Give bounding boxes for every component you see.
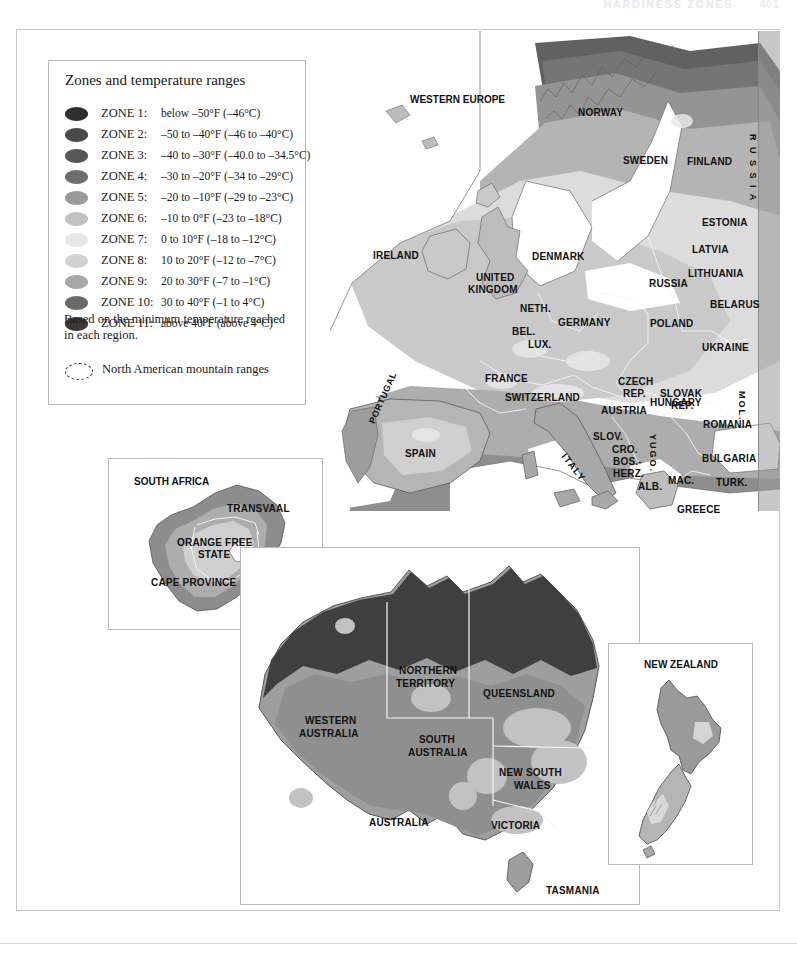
south-africa-region-label: CAPE PROVINCE xyxy=(151,577,236,588)
legend-row[interactable]: ZONE 9:20 to 30°F (–7 to –1°C) xyxy=(65,272,297,293)
europe-country-label: UKRAINE xyxy=(702,342,749,353)
zone-color-swatch xyxy=(65,233,88,247)
europe-country-label: SPAIN xyxy=(405,448,436,459)
europe-country-label: NETH. xyxy=(520,303,551,314)
europe-country-label: IRELAND xyxy=(373,250,419,261)
europe-country-label: GREECE xyxy=(677,504,720,515)
legend-title: Zones and temperature ranges xyxy=(65,72,245,89)
europe-country-label: YUGO. xyxy=(647,434,658,473)
legend-row[interactable]: ZONE 8:10 to 20°F (–12 to –7°C) xyxy=(65,251,297,272)
legend-mountain-label: North American mountain ranges xyxy=(102,362,269,377)
new-zealand-inset-panel[interactable]: NEW ZEALAND xyxy=(608,643,753,865)
europe-country-label: NORWAY xyxy=(578,107,623,118)
europe-country-label: SLOV. xyxy=(593,431,623,442)
zone-color-swatch xyxy=(65,191,88,205)
zone-name: ZONE 8: xyxy=(101,253,147,268)
zone-name: ZONE 5: xyxy=(101,190,147,205)
europe-country-label: SWEDEN xyxy=(623,155,668,166)
europe-country-label: POLAND xyxy=(650,318,693,329)
dashed-outline-icon xyxy=(65,363,93,380)
europe-country-label: CRO. xyxy=(612,444,638,455)
legend-note: Based on the minimum temperature reached… xyxy=(64,311,294,343)
legend-zone-list: ZONE 1:below –50°F (–46°C)ZONE 2:–50 to … xyxy=(65,104,297,335)
page-folio: 401 xyxy=(759,0,779,10)
australia-region-label: AUSTRALIA xyxy=(369,817,429,828)
tasmania-shape xyxy=(507,852,533,892)
europe-country-label: ESTONIA xyxy=(702,217,748,228)
europe-country-label: CZECH xyxy=(618,376,653,387)
europe-country-label: UNITED xyxy=(476,272,514,283)
new-zealand-map[interactable] xyxy=(609,644,754,866)
south-africa-region-label: STATE xyxy=(198,549,230,560)
australia-region-label: NORTHERN xyxy=(399,665,457,676)
zone-temperature-range: 10 to 20°F (–12 to –7°C) xyxy=(161,254,276,266)
legend-row[interactable]: ZONE 2:–50 to –40°F (–46 to –40°C) xyxy=(65,125,297,146)
zone-temperature-range: –40 to –30°F (–40.0 to –34.5°C) xyxy=(161,149,310,161)
zone-temperature-range: –30 to –20°F (–34 to –29°C) xyxy=(161,170,293,182)
western-europe-map[interactable]: WESTERN EUROPE NORWAYSWEDENFINLANDR U S … xyxy=(330,31,780,511)
zone-temperature-range: –10 to 0°F (–23 to –18°C) xyxy=(161,212,282,224)
europe-country-label: BEL. xyxy=(512,326,536,337)
page-baseline-rule xyxy=(0,943,797,944)
zone-name: ZONE 10: xyxy=(101,295,153,310)
europe-country-label: TURK. xyxy=(716,477,748,488)
australia-region-label: TASMANIA xyxy=(546,885,600,896)
australia-region-label: SOUTH xyxy=(419,734,455,745)
zone-color-swatch xyxy=(65,212,88,226)
legend-row[interactable]: ZONE 1:below –50°F (–46°C) xyxy=(65,104,297,125)
europe-country-label: LITHUANIA xyxy=(688,268,744,279)
zone-name: ZONE 9: xyxy=(101,274,147,289)
zone-color-swatch xyxy=(65,275,88,289)
europe-country-label: MAC. xyxy=(668,475,694,486)
zone-temperature-range: –20 to –10°F (–29 to –23°C) xyxy=(161,191,293,203)
europe-country-label: LATVIA xyxy=(692,244,729,255)
australia-region-label: VICTORIA xyxy=(491,820,540,831)
zone-color-swatch xyxy=(65,296,88,310)
zone-temperature-range: 30 to 40°F (–1 to 4°C) xyxy=(161,296,264,308)
australia-region-label: WALES xyxy=(514,780,551,791)
europe-country-label: LUX. xyxy=(528,339,552,350)
new-zealand-map-svg xyxy=(609,644,754,866)
zone-name: ZONE 3: xyxy=(101,148,147,163)
europe-country-label: AUSTRIA xyxy=(601,405,647,416)
australia-region-label: TERRITORY xyxy=(396,678,455,689)
new-zealand-title: NEW ZEALAND xyxy=(644,659,718,670)
australia-map[interactable] xyxy=(241,548,641,906)
australia-region-label: WESTERN xyxy=(305,715,356,726)
south-africa-title: SOUTH AFRICA xyxy=(134,476,209,487)
europe-country-label: FRANCE xyxy=(485,373,528,384)
australia-map-svg xyxy=(241,548,641,906)
europe-country-label: BELARUS xyxy=(710,299,760,310)
zone-temperature-range: 0 to 10°F (–18 to –12°C) xyxy=(161,233,276,245)
legend-mountain-key: North American mountain ranges xyxy=(64,361,299,383)
europe-country-label: R U S S I A xyxy=(747,134,758,202)
zone-color-swatch xyxy=(65,107,88,121)
legend-row[interactable]: ZONE 7:0 to 10°F (–18 to –12°C) xyxy=(65,230,297,251)
australia-inset-panel[interactable]: NORTHERNTERRITORYQUEENSLANDWESTERNAUSTRA… xyxy=(240,547,640,905)
zone-name: ZONE 4: xyxy=(101,169,147,184)
legend-row[interactable]: ZONE 3:–40 to –30°F (–40.0 to –34.5°C) xyxy=(65,146,297,167)
legend-row[interactable]: ZONE 4:–30 to –20°F (–34 to –29°C) xyxy=(65,167,297,188)
europe-country-label: BULGARIA xyxy=(702,453,756,464)
legend-row[interactable]: ZONE 6:–10 to 0°F (–23 to –18°C) xyxy=(65,209,297,230)
zone-temperature-range: below –50°F (–46°C) xyxy=(161,107,260,119)
legend-row[interactable]: ZONE 5:–20 to –10°F (–29 to –23°C) xyxy=(65,188,297,209)
russia-margin-band xyxy=(758,31,780,511)
running-head: HARDINESS ZONES401 xyxy=(0,0,797,14)
north-island-shape xyxy=(657,680,721,774)
zone-name: ZONE 1: xyxy=(101,106,147,121)
zone-name: ZONE 2: xyxy=(101,127,147,142)
australia-region-label: AUSTRALIA xyxy=(299,728,359,739)
europe-country-label: REP. xyxy=(623,388,646,399)
europe-country-label: BOS.- xyxy=(613,456,642,467)
europe-country-label: KINGDOM xyxy=(468,284,518,295)
zone-color-swatch xyxy=(65,170,88,184)
australia-region-label: AUSTRALIA xyxy=(408,747,468,758)
zone-temperature-range: –50 to –40°F (–46 to –40°C) xyxy=(161,128,293,140)
legend-panel[interactable]: Zones and temperature ranges ZONE 1:belo… xyxy=(48,60,306,405)
zone-name: ZONE 7: xyxy=(101,232,147,247)
south-africa-region-label: TRANSVAAL xyxy=(227,503,290,514)
western-europe-title: WESTERN EUROPE xyxy=(410,94,505,105)
stewart-island-shape xyxy=(643,846,655,858)
europe-country-label: RUSSIA xyxy=(649,278,688,289)
